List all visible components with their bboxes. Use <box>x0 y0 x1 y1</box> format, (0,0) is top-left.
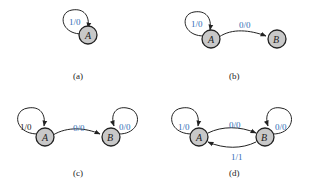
edge-label: 1/1 <box>231 152 243 162</box>
caption: (b) <box>229 71 240 81</box>
transition-b-a-edge <box>208 142 256 147</box>
node-label: A <box>41 132 49 143</box>
edge-label: 1/0 <box>69 17 81 27</box>
transition-a-b-edge <box>219 31 266 37</box>
node-label: B <box>261 132 267 143</box>
edge-label: 1/0 <box>191 19 203 29</box>
caption: (c) <box>73 168 83 178</box>
node-label: B <box>107 132 113 143</box>
node-label: A <box>207 34 215 45</box>
node-label: A <box>195 132 203 143</box>
state-diagram-figure: 1/0 A (a) 1/0 0/0 A B (b) 1/0 0/0 0/0 A … <box>0 0 314 192</box>
edge-label: 1/0 <box>178 122 190 132</box>
node-label: A <box>84 30 92 41</box>
edge-label: 0/0 <box>119 122 131 132</box>
panel-b: 1/0 0/0 A B (b) <box>185 12 286 81</box>
edge-label: 0/0 <box>229 120 241 130</box>
edge-label: 0/0 <box>239 20 251 30</box>
caption: (d) <box>229 168 240 178</box>
panel-a: 1/0 A (a) <box>63 10 97 81</box>
panel-d: 1/0 0/0 0/0 1/1 A B (d) <box>172 108 292 178</box>
edge-label: 1/0 <box>20 122 32 132</box>
edge-label: 0/0 <box>73 123 85 133</box>
node-label: B <box>273 34 279 45</box>
panel-c: 1/0 0/0 0/0 A B (c) <box>18 108 138 178</box>
edge-label: 0/0 <box>275 122 287 132</box>
caption: (a) <box>73 71 83 81</box>
